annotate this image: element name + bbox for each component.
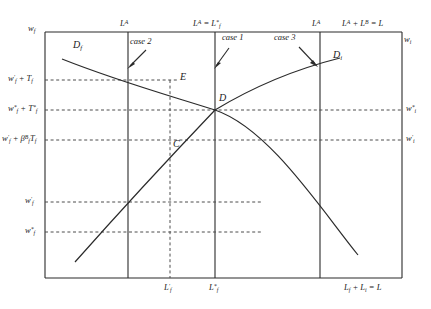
curve-df-path: [62, 59, 358, 255]
x-axis-label-total: Lf + Li = L: [344, 283, 381, 293]
top-label-la-lb-total: LA + LB = L: [342, 19, 383, 28]
ytick-label-wf-prime-tf: w′f + Tf: [8, 74, 33, 84]
economics-diagram-svg: [0, 0, 431, 309]
case-label-1: case 1: [222, 33, 243, 42]
top-label-la-lf-star: LA = L*f: [193, 19, 220, 29]
ytick-label-wf-star: w*f: [25, 226, 35, 236]
ytick-label-wi-prime: w′i: [406, 134, 415, 144]
y-axis-label-wf: wf: [28, 24, 35, 34]
case-label-3: case 3: [274, 33, 295, 42]
ytick-label-wf-prime-beta-tf: w′f + βBfTf: [2, 134, 36, 144]
curve-label-di: Di: [333, 50, 342, 62]
case-1-arrow: [214, 48, 229, 69]
xtick-label-lf-prime: L′f: [164, 283, 172, 293]
ytick-label-wf-star-tf-star: w*f + T*f: [8, 104, 37, 114]
point-label-c: C: [173, 139, 180, 149]
y-axis-label-wi: wi: [404, 35, 411, 45]
case-2-arrow: [127, 50, 146, 69]
point-label-d: D: [219, 93, 226, 103]
figure-canvas: wf wi Lf + Li = L LA LA = L*f LA LA + LB…: [0, 0, 431, 309]
top-label-la-2: LA: [312, 19, 320, 28]
curve-label-df: Df: [73, 40, 82, 52]
xtick-label-lf-star: L*f: [209, 283, 218, 293]
top-label-la-1: LA: [120, 19, 128, 28]
ytick-label-wi-star: w*i: [406, 104, 416, 114]
ytick-label-wf-prime: w′f: [25, 196, 34, 206]
case-label-2: case 2: [130, 37, 151, 46]
point-label-e: E: [180, 72, 186, 82]
case-3-arrow: [299, 47, 318, 67]
curve-di-path: [75, 58, 340, 262]
